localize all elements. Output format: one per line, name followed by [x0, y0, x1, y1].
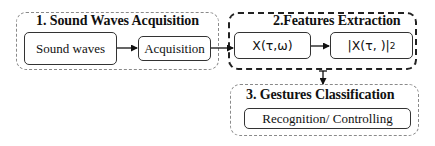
edges — [0, 0, 435, 146]
pipeline-diagram: 1. Sound Waves Acquisition Sound waves A… — [0, 0, 435, 146]
